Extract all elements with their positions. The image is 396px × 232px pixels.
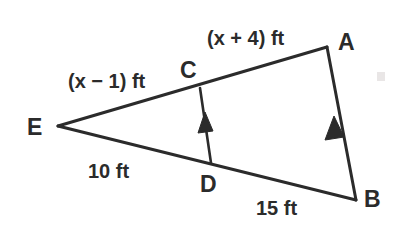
measure-label-db: 15 ft — [256, 197, 297, 219]
scan-artifact — [377, 72, 385, 81]
measure-label-ed: 10 ft — [88, 160, 129, 182]
vertex-label-d: D — [200, 171, 217, 197]
vertex-label-c: C — [180, 57, 197, 83]
geometry-diagram: E A B C D (x − 1) ft (x + 4) ft 10 ft 15… — [0, 0, 396, 232]
vertex-label-a: A — [338, 29, 355, 55]
measure-label-ec: (x − 1) ft — [68, 70, 146, 92]
vertex-label-b: B — [364, 186, 381, 212]
measure-label-ca: (x + 4) ft — [207, 27, 285, 49]
parallel-arrow-icon-cd — [198, 112, 213, 133]
vertex-label-e: E — [27, 114, 42, 140]
